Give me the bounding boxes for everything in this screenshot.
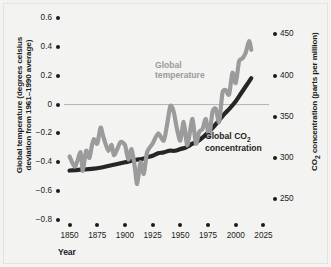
y-axis-right-tick-label: 350 bbox=[280, 112, 310, 121]
x-axis-tick-label: 1875 bbox=[82, 231, 112, 240]
y-axis-left-tick-label: 0.4 bbox=[22, 42, 52, 51]
x-axis-tick-dot bbox=[123, 223, 127, 227]
y-axis-left-tick-label: −0.4 bbox=[22, 157, 52, 166]
x-axis-tick-label: 2025 bbox=[248, 231, 278, 240]
x-axis-tick-dot bbox=[261, 223, 265, 227]
x-axis-tick-dot bbox=[151, 223, 155, 227]
co2-series-label: Global CO2 concentration bbox=[205, 131, 262, 153]
x-axis-tick-dot bbox=[68, 223, 72, 227]
y-axis-left-tick-dot bbox=[56, 103, 60, 107]
y-axis-right-tick-dot bbox=[273, 156, 277, 160]
y-axis-right-tick-dot bbox=[273, 32, 277, 36]
y-axis-left-tick-dot bbox=[56, 74, 60, 78]
y-axis-left-tick-label: 0.6 bbox=[22, 13, 52, 22]
y-axis-left-tick-label: −0.8 bbox=[22, 215, 52, 224]
co2-series-label-line2: concentration bbox=[205, 143, 262, 153]
y-axis-right-title: CO2 concentration (parts per million) bbox=[310, 2, 321, 202]
x-axis-tick-dot bbox=[95, 223, 99, 227]
y-axis-left-tick-dot bbox=[56, 131, 60, 135]
x-axis-tick-dot bbox=[178, 223, 182, 227]
x-axis-tick-label: 1950 bbox=[165, 231, 195, 240]
y-axis-right-tick-label: 450 bbox=[280, 29, 310, 38]
x-axis-tick-label: 1900 bbox=[110, 231, 140, 240]
temperature-series-label-line2: temperature bbox=[155, 70, 205, 80]
y-axis-right-tick-label: 250 bbox=[280, 194, 310, 203]
y-axis-right-tick-dot bbox=[273, 74, 277, 78]
y-axis-left-tick-label: 0.2 bbox=[22, 71, 52, 80]
co2-series-label-subscript: 2 bbox=[247, 136, 251, 143]
y-axis-right-title-subscript: 2 bbox=[314, 155, 321, 159]
temperature-series-label-line1: Global bbox=[155, 60, 182, 70]
y-axis-right-title-pre: CO bbox=[310, 159, 319, 171]
chart-figure: Global temperature (degrees celsius devi… bbox=[0, 0, 331, 267]
y-axis-left-tick-label: −0.2 bbox=[22, 128, 52, 137]
y-axis-left-tick-dot bbox=[56, 189, 60, 193]
y-axis-left-tick-label: 0 bbox=[22, 100, 52, 109]
temperature-series-label: Global temperature bbox=[155, 60, 205, 80]
y-axis-left-tick-dot bbox=[56, 16, 60, 20]
x-axis-tick-label: 1975 bbox=[193, 231, 223, 240]
y-axis-right-tick-dot bbox=[273, 115, 277, 119]
plot-area bbox=[64, 18, 269, 220]
x-axis-tick-dot bbox=[206, 223, 210, 227]
co2-series-label-line1: Global CO bbox=[205, 131, 247, 141]
y-axis-right-tick-label: 400 bbox=[280, 71, 310, 80]
series-canvas bbox=[64, 18, 269, 220]
y-axis-right-title-post: concentration (parts per million) bbox=[310, 32, 319, 155]
x-axis-tick-label: 1850 bbox=[55, 231, 85, 240]
y-axis-left-tick-dot bbox=[56, 160, 60, 164]
x-axis-tick-dot bbox=[234, 223, 238, 227]
x-axis-tick-label: 2000 bbox=[221, 231, 251, 240]
y-axis-left-tick-dot bbox=[56, 45, 60, 49]
y-axis-left-tick-dot bbox=[56, 218, 60, 222]
y-axis-right-tick-label: 300 bbox=[280, 153, 310, 162]
x-axis-title: Year bbox=[58, 248, 76, 258]
x-axis-tick-label: 1925 bbox=[138, 231, 168, 240]
y-axis-right-tick-dot bbox=[273, 197, 277, 201]
y-axis-left-tick-label: −0.6 bbox=[22, 186, 52, 195]
